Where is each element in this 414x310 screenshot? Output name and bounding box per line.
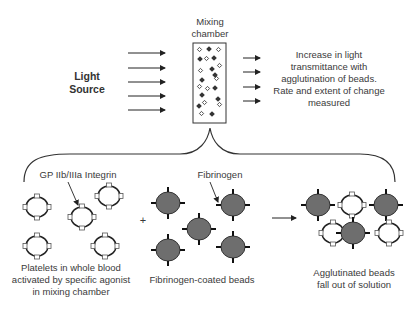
mixing-chamber-line1: Mixing bbox=[184, 16, 236, 28]
measurement-line3: agglutination of beads. bbox=[262, 73, 396, 85]
light-source-label: Light Source bbox=[64, 70, 110, 96]
input-light-arrows bbox=[128, 53, 165, 110]
integrin-pointer bbox=[68, 182, 78, 205]
light-source-line1: Light bbox=[64, 70, 110, 83]
mixing-chamber-line2: chamber bbox=[184, 28, 236, 40]
measurement-line1: Increase in light bbox=[262, 49, 396, 61]
fibrinogen-label: Fibrinogen bbox=[194, 169, 246, 181]
light-source-line2: Source bbox=[64, 83, 110, 96]
measurement-line2: transmittance with bbox=[262, 61, 396, 73]
plus-sign: + bbox=[138, 214, 148, 226]
platelets-caption-line3: in mixing chamber bbox=[0, 286, 142, 298]
output-light-arrows bbox=[243, 58, 260, 101]
integrin-label: GP IIb/IIIa Integrin bbox=[35, 169, 121, 181]
measurement-line5: measured bbox=[262, 97, 396, 109]
beads-group bbox=[151, 187, 250, 266]
platelets-caption-line1: Platelets in whole blood bbox=[0, 262, 142, 274]
agglutinated-caption: Agglutinated beads fall out of solution bbox=[296, 267, 412, 291]
mixing-chamber-label: Mixing chamber bbox=[184, 16, 236, 40]
beads-caption-line1: Fibrinogen-coated beads bbox=[142, 274, 262, 286]
platelets-caption-line2: activated by specific agonist bbox=[0, 274, 142, 286]
agglutinated-caption-line1: Agglutinated beads bbox=[296, 267, 412, 279]
mixing-chamber-box bbox=[193, 43, 226, 123]
beads-caption: Fibrinogen-coated beads bbox=[142, 274, 262, 286]
measurement-description: Increase in light transmittance with agg… bbox=[262, 49, 396, 109]
fibrinogen-pointer bbox=[210, 182, 218, 202]
agglutinated-cluster bbox=[301, 189, 403, 249]
measurement-line4: Rate and extent of change bbox=[262, 85, 396, 97]
platelets-caption: Platelets in whole blood activated by sp… bbox=[0, 262, 142, 298]
agglutinated-caption-line2: fall out of solution bbox=[296, 279, 412, 291]
